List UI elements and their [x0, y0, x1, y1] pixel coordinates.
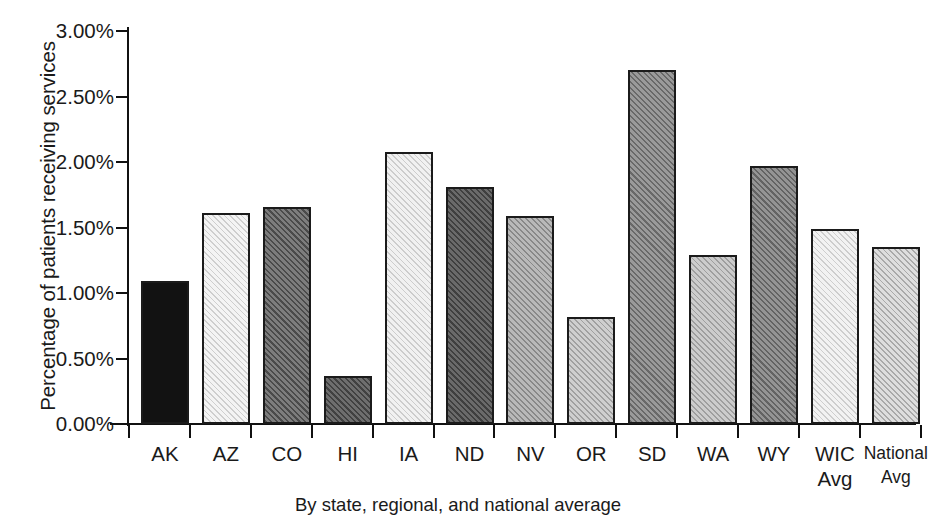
x-tick-mark	[493, 425, 495, 438]
bar	[446, 187, 494, 424]
x-tick-mark	[859, 425, 861, 438]
bar	[567, 317, 615, 424]
bar	[324, 376, 372, 424]
bar	[811, 229, 859, 424]
x-tick-mark	[433, 425, 435, 438]
bar	[750, 166, 798, 424]
bar	[202, 213, 250, 424]
x-tick-mark	[189, 425, 191, 438]
x-category-label: National Avg	[851, 441, 932, 489]
x-axis-title: By state, regional, and national average	[0, 494, 916, 516]
bar	[689, 255, 737, 424]
x-tick-mark	[798, 425, 800, 438]
x-tick-mark	[372, 425, 374, 438]
bar	[263, 207, 311, 424]
bar	[141, 281, 189, 424]
x-tick-mark	[554, 425, 556, 438]
x-tick-mark	[311, 425, 313, 438]
x-tick-mark	[250, 425, 252, 438]
x-tick-mark	[615, 425, 617, 438]
bar	[628, 70, 676, 424]
bar	[506, 216, 554, 424]
x-tick-mark	[920, 425, 922, 438]
bars-container	[0, 0, 916, 424]
x-tick-mark	[676, 425, 678, 438]
bar	[385, 152, 433, 424]
x-tick-mark	[128, 425, 130, 438]
bar	[872, 247, 920, 424]
x-tick-mark	[737, 425, 739, 438]
